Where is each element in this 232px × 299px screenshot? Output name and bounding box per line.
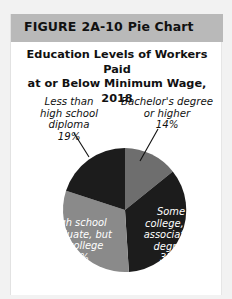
pie-label-line: Less than [23, 96, 115, 108]
pie-label-value: 31% [29, 252, 127, 264]
pie-label-line: High school [29, 217, 127, 229]
pie-label-value: 35% [133, 252, 209, 264]
pie-label-line: no college [29, 240, 127, 252]
pie-label-line: degree [133, 241, 209, 253]
pie-label-bachelors: Bachelor's degree or higher 14% [115, 96, 219, 131]
pie-label-some-college: Some college, or associate's degree 35% [133, 206, 209, 264]
pie-chart: Less than high school diploma 19% Bachel… [11, 14, 223, 295]
pie-label-value: 19% [23, 131, 115, 143]
pie-label-line: associate's [133, 229, 209, 241]
pie-label-line: Some [133, 206, 209, 218]
pie-label-line: or higher [115, 108, 219, 120]
pie-label-less-than-high-school: Less than high school diploma 19% [23, 96, 115, 142]
pie-label-high-school-graduate: High school graduate, but no college 31% [29, 217, 127, 263]
pie-label-value: 14% [115, 119, 219, 131]
figure-card: FIGURE2A-10Pie Chart Education Levels of… [10, 14, 222, 295]
pie-label-line: high school [23, 108, 115, 120]
pie-label-line: graduate, but [29, 229, 127, 241]
pie-label-line: diploma [23, 119, 115, 131]
pie-label-line: Bachelor's degree [115, 96, 219, 108]
pie-label-line: college, or [133, 218, 209, 230]
